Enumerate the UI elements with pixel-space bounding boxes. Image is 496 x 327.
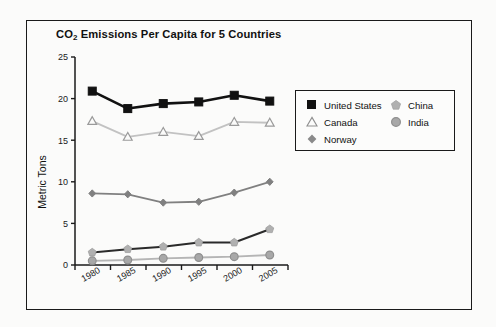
y-axis-tick-label: 15 (58, 136, 68, 146)
series-line (92, 182, 270, 203)
series-united-states (88, 87, 274, 112)
series-china (88, 225, 273, 256)
legend-item-label: India (408, 117, 429, 128)
chart-figure: CO2 Emissions Per Capita for 5 Countries… (0, 0, 496, 327)
legend-item-label: China (408, 100, 433, 111)
data-point (88, 87, 96, 95)
data-point (124, 191, 131, 198)
y-axis-tick-label: 20 (58, 94, 68, 104)
legend-column-right: ChinaIndia (389, 97, 433, 131)
data-point (195, 198, 202, 205)
legend-column-left: United StatesCanadaNorway (305, 97, 382, 148)
data-point (124, 256, 132, 264)
data-point (124, 245, 132, 253)
data-point (195, 98, 203, 106)
data-point (195, 254, 203, 262)
series-line (92, 91, 270, 108)
legend-item-canada[interactable]: Canada (305, 114, 382, 130)
chart-legend: United StatesCanadaNorway ChinaIndia (295, 90, 455, 151)
y-axis-title: Metric Tons (36, 155, 48, 209)
series-india (88, 251, 273, 265)
series-canada (88, 117, 274, 141)
data-point (159, 254, 167, 262)
legend-item-china[interactable]: China (389, 97, 433, 113)
plot-area: 0510152025198019851990199520002005Metric… (0, 0, 496, 327)
data-point (195, 238, 203, 246)
legend-item-label: United States (324, 100, 382, 111)
data-point (160, 199, 167, 206)
x-axis-tick-label: 1995 (186, 265, 208, 284)
legend-item-norway[interactable]: Norway (305, 131, 382, 147)
data-point (88, 257, 96, 265)
data-point (89, 190, 96, 197)
data-point (266, 251, 274, 259)
x-axis-tick-label: 2005 (257, 265, 279, 284)
legend-item-label: Norway (324, 134, 357, 145)
x-axis-tick-label: 1980 (80, 265, 102, 284)
y-axis-tick-label: 25 (58, 52, 68, 62)
data-point (266, 178, 273, 185)
y-axis-tick-label: 0 (63, 260, 68, 270)
data-point (88, 248, 96, 256)
series-line (92, 121, 270, 137)
x-axis-tick-label: 2000 (222, 265, 244, 284)
pentagon-icon (389, 98, 403, 112)
series-line (92, 255, 270, 261)
data-point (230, 238, 238, 246)
circle-icon (389, 115, 403, 129)
open-triangle-icon (305, 115, 319, 129)
x-axis-tick-label: 1985 (115, 265, 137, 284)
data-point (124, 105, 132, 113)
data-point (266, 97, 274, 105)
y-axis-tick-label: 10 (58, 177, 68, 187)
legend-item-india[interactable]: India (389, 114, 433, 130)
data-point (266, 225, 274, 233)
data-point (88, 117, 97, 125)
x-axis-tick-label: 1990 (151, 265, 173, 284)
series-norway (89, 178, 273, 206)
y-axis-tick-label: 5 (63, 219, 68, 229)
data-point (230, 253, 238, 261)
data-point (159, 243, 167, 251)
series-line (92, 229, 270, 252)
data-point (230, 91, 238, 99)
data-point (159, 100, 167, 108)
data-point (231, 189, 238, 196)
diamond-icon (305, 132, 319, 146)
legend-item-label: Canada (324, 117, 358, 128)
legend-item-united-states[interactable]: United States (305, 97, 382, 113)
filled-square-icon (305, 98, 319, 112)
